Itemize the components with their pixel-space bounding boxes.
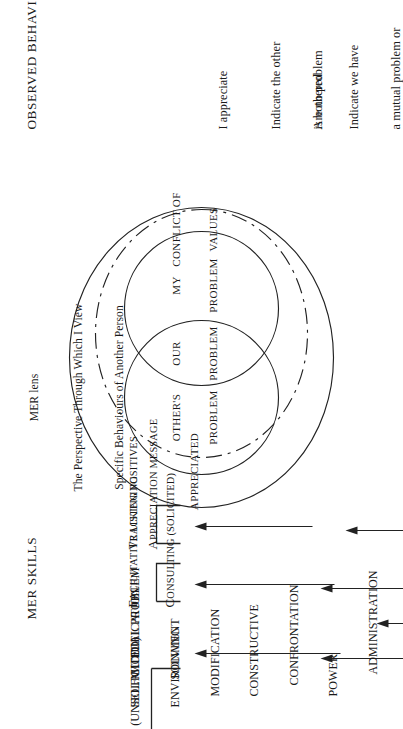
skill-item: CONSTRUCTIVE bbox=[247, 570, 260, 707]
behaviour-line: I appreciate bbox=[215, 70, 229, 129]
region-our-problem: OUR PROBLEM bbox=[144, 326, 243, 381]
skill-item: ADMINISTRATION bbox=[366, 570, 379, 707]
mer-lens-diagram: MER lens The Perspective Through Which I… bbox=[0, 0, 403, 729]
skill-item: CONFRONTATION bbox=[287, 570, 300, 707]
behaviour-item-4: Indicate we have a mutual problem or con… bbox=[317, 27, 403, 129]
behaviour-line: Indicate we have bbox=[346, 27, 360, 129]
skill-item: MODIFICATION bbox=[208, 570, 221, 707]
diagram-stage: MER lens The Perspective Through Which I… bbox=[0, 0, 403, 729]
skill-item: POWER bbox=[326, 570, 339, 707]
figure-subtitle-line1: The Perspective Through Which I View bbox=[71, 303, 85, 491]
region-others-problem: OTHER'S PROBLEM bbox=[144, 390, 243, 445]
skill-item: CONSULTING (UNSOLICITED) bbox=[128, 637, 141, 729]
region-conflict-of-values: CONFLICT OF VALUES bbox=[144, 192, 243, 266]
behaviour-line: Indicate the other bbox=[268, 41, 282, 129]
observed-behaviours-heading: OBSERVED BEHAVIOURS bbox=[24, 0, 38, 129]
figure-title: MER lens bbox=[28, 373, 40, 421]
mer-skills-heading: MER SKILLS bbox=[24, 536, 38, 619]
skill-item: ENVIRONMENT bbox=[168, 570, 181, 707]
skill-group-5: CONSULTING (UNSOLICITED) bbox=[102, 637, 168, 729]
behaviour-line: a mutual problem or bbox=[388, 27, 402, 129]
